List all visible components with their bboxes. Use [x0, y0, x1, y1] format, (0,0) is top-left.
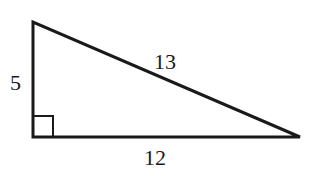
right-angle-marker — [33, 116, 53, 137]
horizontal-leg-label: 12 — [144, 145, 166, 170]
triangle-shape — [33, 22, 300, 137]
hypotenuse-label: 13 — [154, 49, 176, 74]
vertical-leg-label: 5 — [10, 70, 21, 95]
right-triangle-diagram: 5 13 12 — [0, 0, 314, 176]
